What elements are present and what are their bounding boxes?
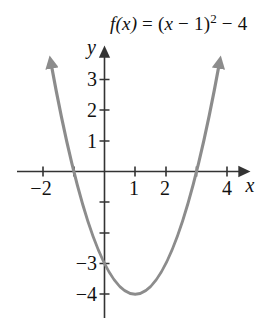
x-tick-label: 2 <box>160 178 170 198</box>
x-tick-label: −2 <box>30 178 51 198</box>
x-tick-label: 4 <box>222 178 232 198</box>
y-tick-label: −4 <box>76 284 97 304</box>
formula-minus-one: − 1) <box>173 13 210 34</box>
function-label: f(x) = (x − 1)2 − 4 <box>110 13 247 35</box>
y-axis-label: y <box>87 37 96 57</box>
formula-minus-four: − 4 <box>217 13 248 34</box>
formula-fx: f(x) <box>110 13 137 34</box>
y-tick-label: 1 <box>87 131 97 151</box>
x-axis-label: x <box>246 175 255 195</box>
y-tick-label: −3 <box>76 253 97 273</box>
formula-equals: = ( <box>137 13 164 34</box>
formula-exponent: 2 <box>210 11 217 26</box>
y-tick-label: 3 <box>87 69 97 89</box>
formula-x: x <box>165 13 174 34</box>
function-graph-figure: f(x) = (x − 1)2 − 4 y x −2 1 2 4 3 2 1 −… <box>0 0 278 323</box>
y-tick-label: 2 <box>87 100 97 120</box>
plot-canvas <box>0 0 278 323</box>
x-tick-label: 1 <box>129 178 139 198</box>
